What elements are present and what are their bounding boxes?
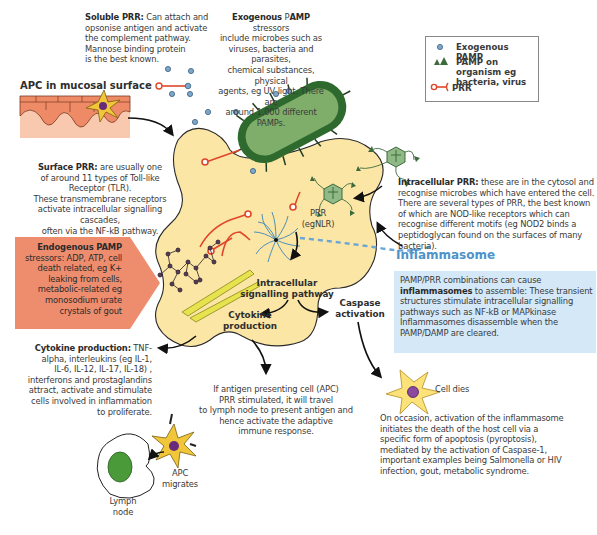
apc-migrates-label: APCmigrates xyxy=(160,468,200,489)
legend: Exogenous PAMP PAMP on organism eg bacte… xyxy=(425,36,539,102)
intracellular-prr-text: Intracellular PRR: these are in the cyto… xyxy=(398,177,596,251)
inflammasome-title: Inflammasome xyxy=(396,248,495,262)
migrating-apc-icon xyxy=(152,414,196,468)
endogenous-pamp-text: Endogenous PAMPstressors: ADP, ATP, cell… xyxy=(18,242,122,316)
lymph-node-icon xyxy=(97,434,154,498)
apc-mucosal-title: APC in mucosal surface xyxy=(20,80,152,91)
dying-cell-icon xyxy=(386,370,440,414)
soluble-prr-text: Soluble PRR: Can attach andopsonise anti… xyxy=(85,12,210,65)
surface-prr-text: Surface PRR: are usually oneof around 11… xyxy=(20,162,180,236)
intracellular-pathway-label: Intracellularsignalling pathway xyxy=(232,278,342,300)
cell-dies-label: Cell dies xyxy=(435,384,469,395)
mucosal-surface-illustration xyxy=(20,90,130,138)
cytokine-production-text: Cytokine production: TNF-alpha, interleu… xyxy=(10,343,152,417)
exogenous-pamp-text: Exogenous PAMP stressorsinclude microbes… xyxy=(215,12,327,129)
legend-prr: PRR xyxy=(452,83,472,93)
lymph-node-label: Lymphnode xyxy=(108,496,138,517)
soluble-prr-icon xyxy=(156,83,191,89)
inflammasome-text: PAMP/PRR combinations can causeinflammas… xyxy=(400,275,596,339)
prr-egnlr-label: PRR(egNLR) xyxy=(298,208,338,229)
apc-lymph-text: If antigen presenting cell (APC)PRR stim… xyxy=(196,384,356,437)
cytokine-production-label: Cytokineproduction xyxy=(215,310,285,332)
pyroptosis-text: On occasion, activation of the inflammas… xyxy=(380,413,597,477)
caspase-activation-label: Caspaseactivation xyxy=(330,298,390,320)
arrow-apc-to-cell xyxy=(128,118,172,134)
